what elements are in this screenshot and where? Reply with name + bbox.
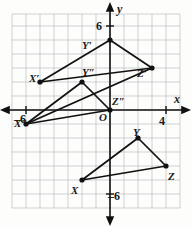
vertex-y	[135, 135, 140, 140]
graph-canvas	[0, 0, 191, 226]
vertex-y-prime	[107, 37, 112, 42]
coordinate-plane-figure: Y′ Z′ X′ Y″ Z″ X″ Y Z X y x 6 4 –6 –6 O	[0, 0, 191, 226]
y-axis-arrow-up	[107, 4, 113, 11]
vertex-x	[79, 177, 84, 182]
axis-lines	[2, 4, 189, 224]
vertex-x-prime	[37, 79, 42, 84]
grid-lines	[12, 14, 180, 208]
x-axis-arrow-right	[182, 107, 189, 113]
y-axis-arrow-down	[107, 217, 113, 224]
vertex-y-double-prime	[79, 79, 84, 84]
vertex-z	[163, 163, 168, 168]
x-axis-arrow-left	[2, 107, 9, 113]
vertex-z-double-prime	[107, 107, 112, 112]
